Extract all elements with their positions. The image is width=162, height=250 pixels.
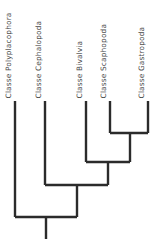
phylogenetic-tree-figure: Classe Polyplacophora Classe Cephalopoda… xyxy=(0,0,162,250)
cladogram-lines xyxy=(0,0,162,250)
internal-nodes-group xyxy=(15,133,148,217)
tip-branches-group xyxy=(15,101,148,217)
